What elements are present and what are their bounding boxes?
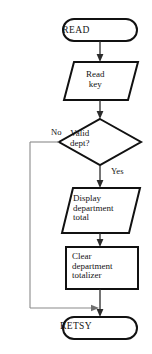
arrowhead-start-to-readkey <box>97 54 104 62</box>
clear-totalizer-shape <box>66 247 138 289</box>
arrowhead-display-to-clear <box>97 239 104 247</box>
arrowhead-readkey-to-decision <box>97 111 104 119</box>
arrowhead-clear-to-end <box>97 309 104 317</box>
branch-label-no: No <box>51 127 62 137</box>
flowchart-diagram: READ Read key Valid dept? Display depart… <box>0 0 152 354</box>
valid-dept-shape <box>59 119 141 165</box>
end-terminal-shape <box>63 317 137 339</box>
display-total-shape <box>62 188 140 233</box>
read-key-shape <box>64 62 138 100</box>
flowchart-canvas <box>0 0 152 354</box>
start-terminal-shape <box>63 19 137 41</box>
arrowhead-decision-to-display <box>97 180 104 188</box>
branch-label-yes: Yes <box>111 166 124 176</box>
